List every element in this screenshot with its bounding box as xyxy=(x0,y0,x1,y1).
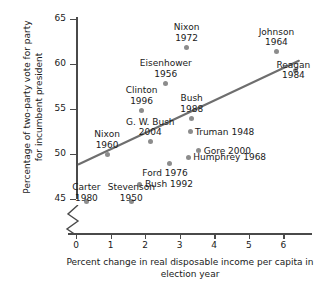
y-tick-label: 55 xyxy=(44,104,66,113)
x-tick-label: 5 xyxy=(239,241,259,250)
x-tick xyxy=(145,233,146,239)
data-point xyxy=(274,49,279,54)
x-tick-label: 6 xyxy=(273,241,293,250)
x-tick xyxy=(283,233,284,239)
x-tick xyxy=(249,233,250,239)
data-point-label: Nixon 1972 xyxy=(174,22,200,43)
x-tick-label: 0 xyxy=(66,241,86,250)
x-tick xyxy=(76,233,77,239)
data-point-label: Ford 1976 xyxy=(142,168,187,179)
data-point-label: Stevenson 1950 xyxy=(108,182,155,203)
y-tick-label: 45 xyxy=(44,194,66,203)
data-point-label: Johnson 1964 xyxy=(259,27,294,48)
y-tick-label: 65 xyxy=(44,14,66,23)
x-axis-line xyxy=(68,233,312,235)
data-point-label: Eisenhower 1956 xyxy=(140,58,192,79)
data-point-label: G. W. Bush 2004 xyxy=(126,117,175,138)
x-tick xyxy=(180,233,181,239)
y-tick-label: 60 xyxy=(44,59,66,68)
y-axis-title: Percentage of two-party vote for party f… xyxy=(21,14,45,200)
data-point xyxy=(163,81,168,86)
y-tick-label: 50 xyxy=(44,149,66,158)
x-axis-title: Percent change in real disposable income… xyxy=(60,256,320,280)
data-point xyxy=(186,155,191,160)
y-tick xyxy=(70,64,76,65)
axis-break-icon xyxy=(62,205,86,235)
data-point-label: Truman 1948 xyxy=(195,127,254,138)
data-point xyxy=(167,161,172,166)
data-point xyxy=(105,152,110,157)
data-point xyxy=(148,139,153,144)
data-point xyxy=(189,116,194,121)
y-tick xyxy=(70,19,76,20)
data-point-label: Bush 1988 xyxy=(180,93,203,114)
x-tick-label: 2 xyxy=(135,241,155,250)
data-point xyxy=(139,108,144,113)
x-tick xyxy=(111,233,112,239)
data-point-label: Humphrey 1968 xyxy=(193,152,266,163)
data-point-label: Nixon 1960 xyxy=(94,129,120,150)
data-point xyxy=(188,129,193,134)
data-point xyxy=(184,45,189,50)
x-tick-label: 1 xyxy=(101,241,121,250)
x-tick xyxy=(214,233,215,239)
data-point-label: Carter 1980 xyxy=(72,182,100,203)
scatter-plot: 4550556065 0123456 Nixon 1972Johnson 196… xyxy=(0,0,320,284)
x-tick-label: 4 xyxy=(204,241,224,250)
data-point-label: Reagan 1984 xyxy=(276,60,310,81)
y-axis-line xyxy=(76,17,78,199)
x-tick-label: 3 xyxy=(170,241,190,250)
data-point-label: Clinton 1996 xyxy=(126,85,158,106)
y-tick xyxy=(70,154,76,155)
y-tick xyxy=(70,109,76,110)
